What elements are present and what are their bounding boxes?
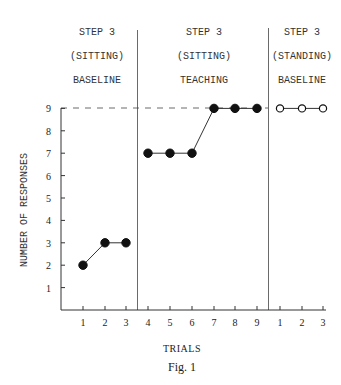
y-tick-label: 5 xyxy=(46,193,51,204)
data-point xyxy=(101,239,109,247)
x-tick-label: 2 xyxy=(300,317,305,328)
data-point xyxy=(144,149,152,157)
y-tick-label: 9 xyxy=(46,103,51,114)
y-tick-label: 8 xyxy=(46,126,51,137)
x-tick-label: 9 xyxy=(255,317,260,328)
data-point xyxy=(319,105,326,112)
data-point xyxy=(276,105,283,112)
y-tick-label: 4 xyxy=(46,215,51,226)
data-point xyxy=(231,104,239,112)
data-point xyxy=(298,105,305,112)
phase3-line2: (STANDING) xyxy=(272,51,332,62)
data-point xyxy=(210,104,218,112)
y-tick-label: 7 xyxy=(46,148,51,159)
phase2-line3: TEACHING xyxy=(180,75,228,86)
x-tick-label: 3 xyxy=(321,317,326,328)
phase3-line1: STEP 3 xyxy=(284,27,320,38)
phase1-line3: BASELINE xyxy=(73,75,121,86)
data-series xyxy=(79,104,327,269)
phase1-line1: STEP 3 xyxy=(79,27,115,38)
phase-header-3: STEP 3 (STANDING) BASELINE xyxy=(272,27,332,86)
y-ticks: 123456789 xyxy=(46,103,65,293)
data-point xyxy=(253,104,261,112)
x-ticks: 123456789123 xyxy=(81,306,326,328)
phase1-line2: (SITTING) xyxy=(70,51,124,62)
phase3-line3: BASELINE xyxy=(278,75,326,86)
phase2-line2: (SITTING) xyxy=(177,51,231,62)
phase-2-line xyxy=(148,108,257,153)
x-tick-label: 5 xyxy=(168,317,173,328)
y-tick-label: 6 xyxy=(46,171,51,182)
y-tick-label: 2 xyxy=(46,260,51,271)
y-axis-label: NUMBER OF RESPONSES xyxy=(19,153,30,267)
x-tick-label: 2 xyxy=(103,317,108,328)
phase-header-1: STEP 3 (SITTING) BASELINE xyxy=(70,27,124,86)
data-point xyxy=(79,261,87,269)
y-tick-label: 3 xyxy=(46,238,51,249)
data-point xyxy=(166,149,174,157)
x-tick-label: 6 xyxy=(190,317,195,328)
phase-header-2: STEP 3 (SITTING) TEACHING xyxy=(177,27,231,86)
x-tick-label: 1 xyxy=(278,317,283,328)
line-chart: STEP 3 (SITTING) BASELINE STEP 3 (SITTIN… xyxy=(0,0,341,385)
x-tick-label: 3 xyxy=(124,317,129,328)
data-point xyxy=(188,149,196,157)
figure-caption: Fig. 1 xyxy=(168,360,196,374)
phase2-line1: STEP 3 xyxy=(186,27,222,38)
y-tick-label: 1 xyxy=(46,283,51,294)
x-tick-label: 4 xyxy=(146,317,151,328)
x-tick-label: 1 xyxy=(81,317,86,328)
data-point xyxy=(122,239,130,247)
x-tick-label: 7 xyxy=(212,317,217,328)
x-axis-label: TRIALS xyxy=(163,343,201,354)
x-tick-label: 8 xyxy=(233,317,238,328)
